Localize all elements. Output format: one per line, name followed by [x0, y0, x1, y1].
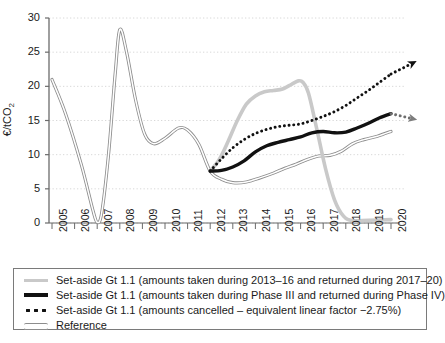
x-axis-tick-label: 2017 [328, 209, 340, 232]
x-axis-tick-label: 2012 [215, 209, 227, 232]
x-axis-tick-label: 2008 [124, 209, 136, 232]
y-axis-tick-label: 15 [14, 114, 40, 126]
legend-label: Set-aside Gt 1.1 (amounts taken during P… [56, 289, 445, 301]
x-axis-tick-label: 2007 [102, 209, 114, 232]
legend-label: Reference [56, 319, 107, 331]
grid-lines [49, 18, 405, 223]
x-axis-tick-label: 2019 [373, 209, 385, 232]
legend-box: Set-aside Gt 1.1 (amounts taken during 2… [13, 268, 427, 330]
y-axis-tick-label: 0 [14, 216, 40, 228]
legend-marker-grey-line [23, 274, 49, 286]
y-axis-label-text: €/tCO [1, 107, 13, 136]
x-axis-tick-label: 2006 [79, 209, 91, 232]
series-1 [210, 81, 391, 221]
legend-marker-dots [23, 304, 49, 316]
legend-item[interactable]: Set-aside Gt 1.1 (amounts taken during P… [14, 288, 426, 302]
chart-figure: €/tCO2 302520151050 20052006200720082009… [0, 0, 445, 343]
legend-marker-black-line [23, 289, 49, 301]
y-axis-tick-label: 25 [14, 45, 40, 57]
legend-marker-double-line [23, 319, 49, 331]
series-arrow [391, 114, 411, 119]
x-axis-tick-label: 2013 [237, 209, 249, 232]
y-axis-label-subscript: 2 [7, 103, 16, 107]
y-axis-tick-label: 20 [14, 79, 40, 91]
x-axis-tick-label: 2016 [305, 209, 317, 232]
series-4 [52, 29, 391, 223]
x-axis-tick-label: 2010 [170, 209, 182, 232]
arrow-layer [391, 64, 411, 119]
x-axis-tick-label: 2014 [260, 209, 272, 232]
x-axis-tick-label: 2011 [192, 209, 204, 232]
legend-label: Set-aside Gt 1.1 (amounts taken during 2… [56, 274, 443, 286]
y-axis-tick-label: 10 [14, 148, 40, 160]
y-axis-tick-label: 30 [14, 11, 40, 23]
legend-label: Set-aside Gt 1.1 (amounts cancelled – eq… [56, 304, 401, 316]
x-axis-tick-label: 2020 [396, 209, 408, 232]
x-axis-tick-label: 2009 [147, 209, 159, 232]
series-layer [52, 29, 391, 223]
legend-item[interactable]: Set-aside Gt 1.1 (amounts taken during 2… [14, 273, 426, 287]
legend-item[interactable]: Set-aside Gt 1.1 (amounts cancelled – eq… [14, 303, 426, 317]
plot-area: €/tCO2 302520151050 20052006200720082009… [0, 0, 445, 262]
x-axis-tick-label: 2015 [283, 209, 295, 232]
x-axis-tick-label: 2018 [350, 209, 362, 232]
y-axis-tick-label: 5 [14, 182, 40, 194]
legend-item[interactable]: Reference [14, 318, 426, 332]
series-arrow [391, 64, 411, 74]
x-axis-tick-label: 2005 [57, 209, 69, 232]
